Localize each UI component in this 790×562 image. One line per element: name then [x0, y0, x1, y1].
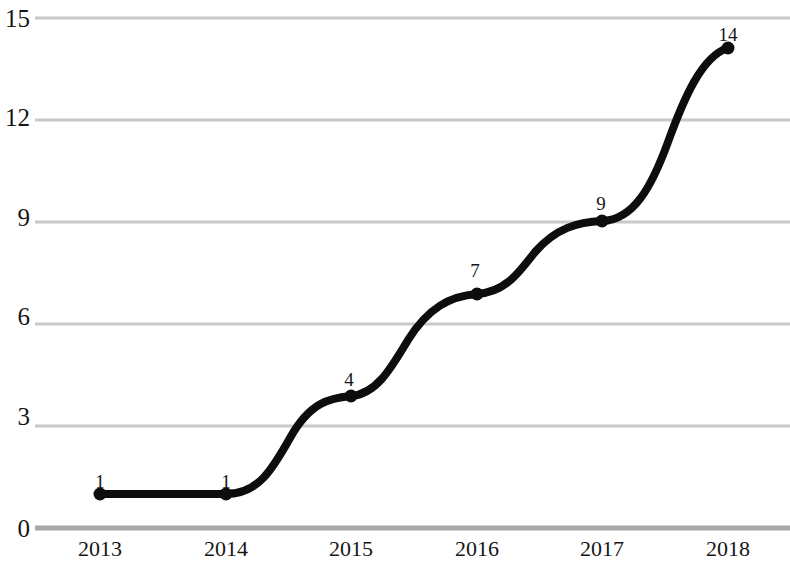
- y-tick-label-3: 3: [0, 404, 30, 429]
- line-chart: 15 12 9 6 3 0 2013 2014 2015 2016 2017 2…: [0, 0, 790, 562]
- data-label-2016: 7: [445, 261, 505, 280]
- y-tick-label-0: 0: [0, 516, 30, 541]
- x-tick-label-2016: 2016: [427, 538, 527, 560]
- y-tick-label-15: 15: [0, 6, 30, 31]
- gridlines: [35, 18, 790, 426]
- y-tick-label-6: 6: [0, 304, 30, 329]
- x-tick-label-2015: 2015: [301, 538, 401, 560]
- y-tick-label-12: 12: [0, 105, 30, 130]
- x-tick-label-2013: 2013: [50, 538, 150, 560]
- data-point-2016: [471, 288, 484, 301]
- x-tick-label-2014: 2014: [176, 538, 276, 560]
- data-label-2013: 1: [70, 472, 130, 491]
- data-label-2015: 4: [319, 370, 379, 389]
- data-label-2014: 1: [196, 472, 256, 491]
- y-tick-label-9: 9: [0, 205, 30, 230]
- data-label-2017: 9: [571, 194, 631, 213]
- x-tick-label-2018: 2018: [678, 538, 778, 560]
- data-label-2018: 14: [698, 25, 758, 44]
- data-point-2015: [345, 390, 358, 403]
- data-point-2017: [596, 215, 609, 228]
- x-tick-label-2017: 2017: [552, 538, 652, 560]
- data-point-markers: [94, 42, 735, 501]
